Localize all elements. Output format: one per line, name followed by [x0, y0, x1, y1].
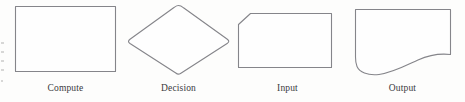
input-label: Input [237, 82, 338, 94]
decision-shape [129, 6, 229, 75]
output-shape [356, 10, 451, 75]
output-label: Output [352, 82, 453, 94]
decision-label: Decision [128, 82, 229, 94]
input-shape [239, 14, 332, 68]
flowchart-symbols-figure: Compute Decision Input Output [0, 0, 465, 102]
compute-shape [16, 7, 116, 72]
compute-label: Compute [15, 82, 116, 94]
